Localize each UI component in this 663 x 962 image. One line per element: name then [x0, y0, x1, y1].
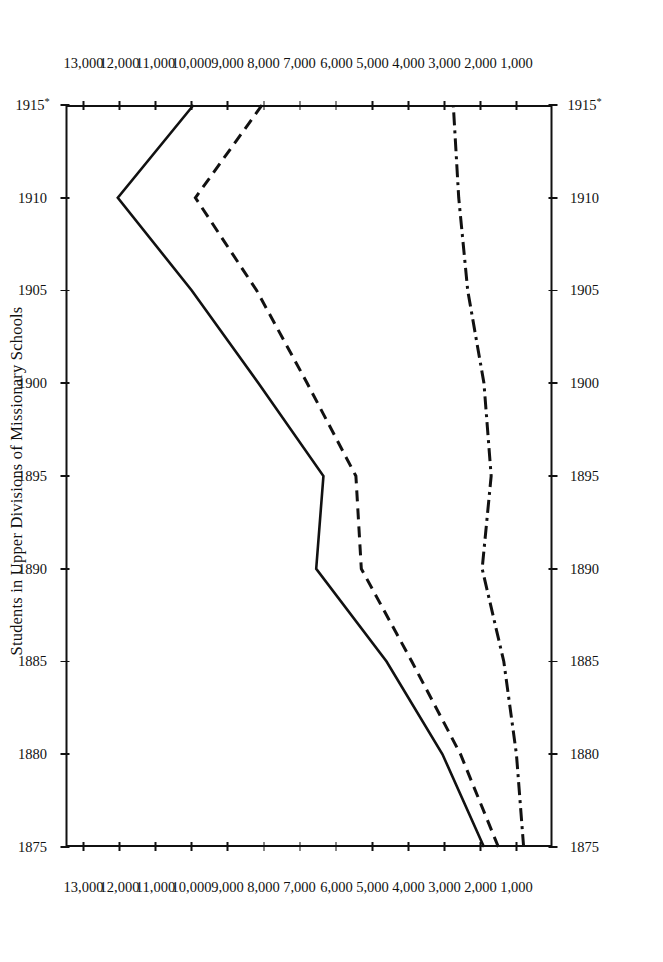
x-tick-top-1905	[60, 290, 69, 292]
y-axis-label-right-10: 3,000	[427, 55, 460, 72]
x-tick-top-1890	[60, 568, 69, 570]
y-axis-label-left-0: 13,000	[63, 879, 103, 896]
y-tick-5,000	[371, 842, 373, 851]
y-axis-label-left-9: 4,000	[391, 879, 424, 896]
x-axis-label-bottom-8: 1915*	[567, 96, 601, 115]
x-tick-1875	[548, 846, 557, 848]
y-tick-6,000	[335, 842, 337, 851]
y-tick-11,000	[154, 842, 156, 851]
chart-canvas: Students in Upper Divisions of Missionar…	[0, 0, 663, 962]
x-axis-label-top-3: 1890	[18, 560, 47, 577]
x-axis-label-top-1: 1880	[18, 746, 47, 763]
y-tick-3,000	[443, 842, 445, 851]
y-tick-9,000	[226, 842, 228, 851]
x-axis-label-top-2: 1885	[18, 653, 47, 670]
y-axis-label-left-10: 3,000	[427, 879, 460, 896]
x-tick-top-1900	[60, 382, 69, 384]
x-tick-1905	[548, 290, 557, 292]
x-tick-top-1915*	[60, 104, 69, 106]
footnote-asterisk: *	[44, 96, 49, 107]
y-axis-label-left-1: 12,000	[99, 879, 139, 896]
y-axis-label-right-2: 11,000	[136, 55, 175, 72]
y-axis-label-right-11: 2,000	[464, 55, 497, 72]
x-tick-top-1895	[60, 475, 69, 477]
y-axis-label-left-6: 7,000	[283, 879, 316, 896]
x-axis-label-bottom-3: 1890	[570, 560, 599, 577]
y-axis-label-right-6: 7,000	[283, 55, 316, 72]
y-axis-label-right-9: 4,000	[391, 55, 424, 72]
y-axis-label-right-12: 1,000	[500, 55, 533, 72]
x-axis-label-top-8: 1915*	[15, 96, 49, 115]
x-axis-label-top-4: 1895	[18, 468, 47, 485]
y-axis-label-left-11: 2,000	[464, 879, 497, 896]
x-axis-label-bottom-7: 1910	[570, 189, 599, 206]
y-tick-right-8,000	[263, 101, 265, 110]
plot-lines	[65, 105, 552, 847]
y-axis-label-left-4: 9,000	[211, 879, 244, 896]
x-tick-1910	[548, 197, 557, 199]
x-tick-1915*	[548, 104, 557, 106]
x-axis-label-top-5: 1900	[18, 375, 47, 392]
y-axis-label-left-7: 6,000	[319, 879, 352, 896]
series-line-dashed	[195, 105, 498, 847]
y-tick-right-1,000	[515, 101, 517, 110]
y-tick-13,000	[82, 842, 84, 851]
y-axis-label-left-12: 1,000	[500, 879, 533, 896]
y-axis-label-right-4: 9,000	[211, 55, 244, 72]
y-tick-10,000	[190, 842, 192, 851]
y-tick-right-7,000	[299, 101, 301, 110]
y-axis-label-right-3: 10,000	[171, 55, 211, 72]
y-axis-label-right-7: 6,000	[319, 55, 352, 72]
x-axis-label-bottom-6: 1905	[570, 282, 599, 299]
series-group	[117, 105, 523, 847]
y-tick-8,000	[263, 842, 265, 851]
y-axis-label-right-5: 8,000	[247, 55, 280, 72]
x-tick-top-1880	[60, 753, 69, 755]
y-tick-right-6,000	[335, 101, 337, 110]
y-tick-right-5,000	[371, 101, 373, 110]
x-axis-label-top-0: 1875	[18, 839, 47, 856]
y-tick-7,000	[299, 842, 301, 851]
x-tick-1900	[548, 382, 557, 384]
x-tick-1890	[548, 568, 557, 570]
y-tick-right-12,000	[118, 101, 120, 110]
y-tick-right-11,000	[154, 101, 156, 110]
y-axis-label-right-0: 13,000	[63, 55, 103, 72]
x-tick-1880	[548, 753, 557, 755]
series-line-solid	[117, 105, 483, 847]
y-tick-2,000	[479, 842, 481, 851]
y-tick-right-3,000	[443, 101, 445, 110]
y-tick-4,000	[407, 842, 409, 851]
series-line-dash-dot	[453, 105, 523, 847]
y-tick-right-2,000	[479, 101, 481, 110]
y-tick-right-9,000	[226, 101, 228, 110]
y-tick-1,000	[515, 842, 517, 851]
y-axis-label-left-8: 5,000	[355, 879, 388, 896]
rotated-figure-wrapper: Students in Upper Divisions of Missionar…	[0, 0, 663, 962]
x-axis-label-bottom-0: 1875	[570, 839, 599, 856]
y-tick-12,000	[118, 842, 120, 851]
y-tick-right-10,000	[190, 101, 192, 110]
x-axis-label-bottom-1: 1880	[570, 746, 599, 763]
y-tick-right-4,000	[407, 101, 409, 110]
y-axis-label-right-8: 5,000	[355, 55, 388, 72]
y-axis-label-right-1: 12,000	[99, 55, 139, 72]
x-tick-top-1885	[60, 661, 69, 663]
y-axis-label-left-2: 11,000	[136, 879, 175, 896]
y-axis-label-left-5: 8,000	[247, 879, 280, 896]
x-axis-label-top-7: 1910	[18, 189, 47, 206]
x-axis-label-bottom-4: 1895	[570, 468, 599, 485]
x-axis-label-bottom-5: 1900	[570, 375, 599, 392]
footnote-asterisk: *	[596, 96, 601, 107]
x-tick-top-1875	[60, 846, 69, 848]
y-tick-right-13,000	[82, 101, 84, 110]
x-tick-top-1910	[60, 197, 69, 199]
y-axis-label-left-3: 10,000	[171, 879, 211, 896]
x-axis-label-bottom-2: 1885	[570, 653, 599, 670]
x-tick-1885	[548, 661, 557, 663]
x-axis-label-top-6: 1905	[18, 282, 47, 299]
x-tick-1895	[548, 475, 557, 477]
